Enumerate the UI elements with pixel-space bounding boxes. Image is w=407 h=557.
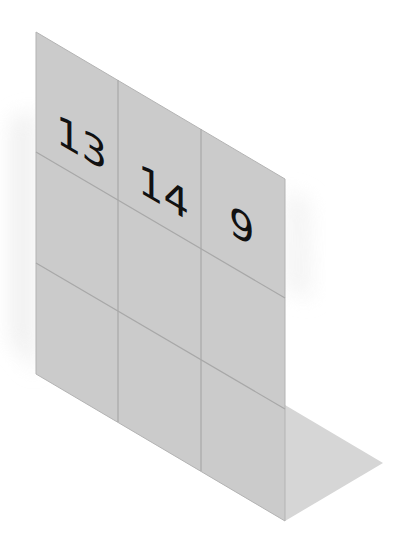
soft-shadow-left bbox=[10, 110, 36, 374]
soft-shadow-right bbox=[285, 190, 312, 300]
isometric-grid-diagram: 13 14 9 bbox=[0, 0, 407, 557]
floor-shadow bbox=[285, 405, 383, 521]
